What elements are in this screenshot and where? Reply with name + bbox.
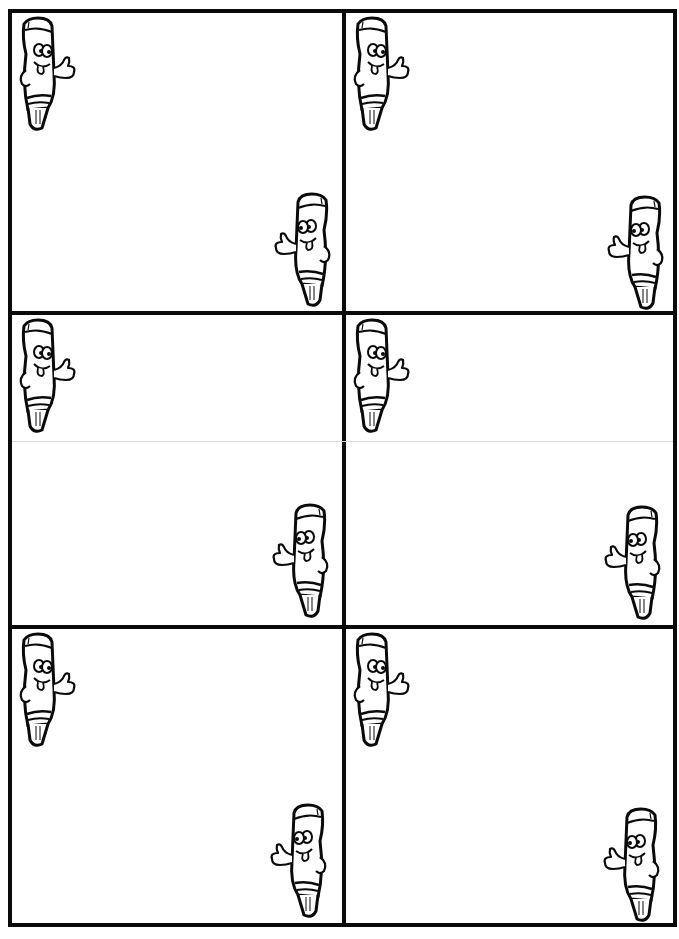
card-6 <box>346 629 673 923</box>
crayon-mascot-icon <box>603 193 669 313</box>
crayon-mascot-icon <box>14 14 80 134</box>
card-2 <box>346 13 673 311</box>
card-4 <box>346 315 673 625</box>
crayon-mascot-icon <box>599 805 665 925</box>
card-1 <box>12 13 342 311</box>
card-3 <box>12 315 342 625</box>
card-5 <box>12 629 342 923</box>
crayon-mascot-icon <box>348 630 414 750</box>
crayon-mascot-icon <box>348 14 414 134</box>
crayon-mascot-icon <box>270 190 336 310</box>
crayon-mascot-icon <box>268 501 334 621</box>
crayon-mascot-icon <box>14 316 80 436</box>
crayon-mascot-icon <box>348 316 414 436</box>
card-sheet <box>8 9 677 927</box>
crayon-mascot-icon <box>266 801 332 921</box>
crayon-mascot-icon <box>14 630 80 750</box>
crayon-mascot-icon <box>600 503 666 623</box>
